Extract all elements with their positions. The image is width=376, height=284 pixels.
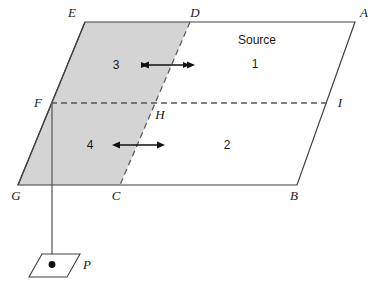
vertex-label-F: F [33,95,43,110]
source-label: Source [238,33,276,47]
region-label-4: 4 [87,138,94,152]
region-label-3: 3 [113,58,120,72]
region-label-1: 1 [252,57,259,71]
vertex-label-A: A [359,5,368,20]
region-label-2: 2 [224,138,231,152]
vertex-label-G: G [11,188,21,203]
arrow-upper-right-head [187,62,195,69]
geometry-diagram: E D A F H I G C B P 3 1 4 2 Source [0,0,376,284]
vertex-label-B: B [290,188,298,203]
vertex-label-E: E [67,5,76,20]
vertex-label-C: C [112,188,121,203]
diagram-canvas: E D A F H I G C B P 3 1 4 2 Source [0,0,376,284]
vertex-label-I: I [337,95,343,110]
arrow-lower-right-head [157,142,165,149]
vertex-label-H: H [154,107,165,122]
vertex-label-P: P [82,257,91,272]
point-P-dot [49,261,56,268]
vertex-label-D: D [189,5,200,20]
